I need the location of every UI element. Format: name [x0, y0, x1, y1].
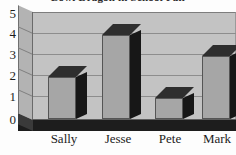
bar-mark[interactable] — [202, 56, 230, 119]
y-tick-label: 4 — [2, 27, 16, 40]
y-tick-label: 2 — [2, 69, 16, 82]
x-tick-label-mark: Mark — [189, 132, 236, 146]
bar-sally[interactable] — [48, 77, 76, 119]
x-tick-label-sally: Sally — [36, 132, 92, 146]
bar-pete[interactable] — [155, 98, 183, 119]
bar-chart: Bowl Dragon in School Fall 5 4 3 2 1 0 — [0, 0, 236, 155]
y-tick-label: 3 — [2, 48, 16, 61]
chart-title: Bowl Dragon in School Fall — [0, 0, 236, 3]
plot-area — [18, 12, 236, 130]
bar-side-face — [230, 51, 236, 119]
plot-floor-edge — [32, 119, 236, 120]
y-tick-label: 0 — [2, 113, 16, 126]
y-axis-line — [32, 12, 33, 124]
y-tick-label: 5 — [2, 7, 16, 20]
bar-jesse[interactable] — [102, 35, 130, 119]
y-axis: 5 4 3 2 1 0 — [0, 0, 16, 155]
plot-floor — [18, 120, 236, 131]
bar-front-face — [202, 56, 230, 119]
bar-front-face — [48, 77, 76, 119]
bar-front-face — [155, 98, 183, 119]
plot-left-wall — [18, 5, 33, 120]
bar-side-face — [130, 30, 141, 119]
bar-front-face — [102, 35, 130, 119]
x-tick-label-jesse: Jesse — [90, 132, 146, 146]
y-tick-label: 1 — [2, 90, 16, 103]
bar-side-face — [76, 72, 87, 119]
x-axis: Sally Jesse Pete Mark — [18, 132, 236, 155]
